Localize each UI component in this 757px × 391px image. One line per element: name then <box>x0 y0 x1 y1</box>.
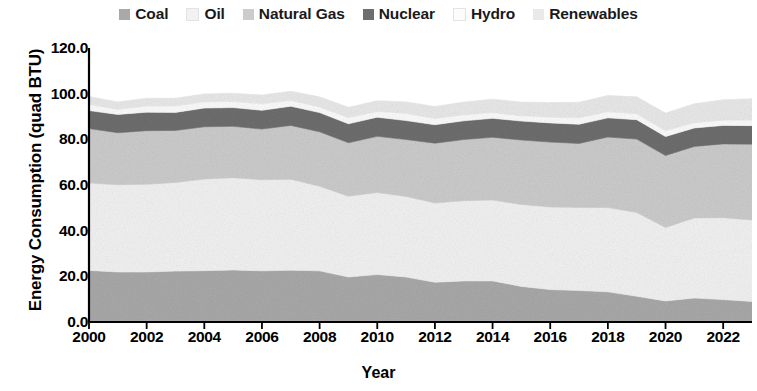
x-axis-tick-label: 2016 <box>534 328 567 346</box>
x-axis-tick-label: 2020 <box>649 328 682 346</box>
x-axis-tick-label: 2012 <box>418 328 451 346</box>
x-axis-tick-labels: 2000200220042006200820102012201420162018… <box>0 328 757 354</box>
x-axis-tick-label: 2010 <box>361 328 394 346</box>
stacked-area-chart: CoalOilNatural GasNuclearHydroRenewables… <box>0 0 757 391</box>
x-axis-tick-label: 2018 <box>591 328 624 346</box>
x-axis-tick-label: 2008 <box>303 328 336 346</box>
x-axis-tick-label: 2022 <box>707 328 740 346</box>
x-axis-tick-label: 2002 <box>130 328 163 346</box>
x-axis-tick-label: 2004 <box>188 328 221 346</box>
x-axis-title: Year <box>0 364 757 382</box>
x-axis-tick-label: 2000 <box>72 328 105 346</box>
x-axis-tick-label: 2014 <box>476 328 509 346</box>
x-axis-tick-label: 2006 <box>245 328 278 346</box>
